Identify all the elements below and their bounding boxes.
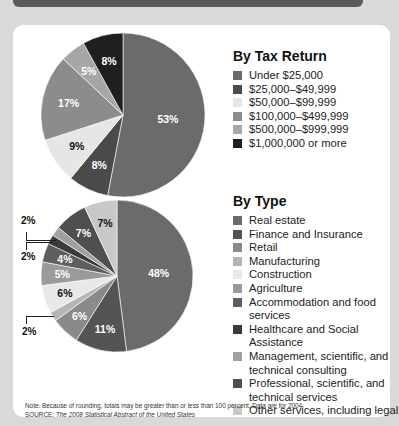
rounding-note: Note: Because of rounding, totals may be…	[25, 401, 304, 410]
legend-swatch	[233, 270, 242, 279]
business-type-legend-title: By Type	[233, 193, 399, 209]
legend-label: $25,000–$49,999	[249, 83, 336, 97]
legend-label: Management, scientific, and technical co…	[249, 350, 399, 377]
business-type-legend-item: Healthcare and Social Assistance	[233, 323, 399, 350]
tax-return-slice-label: 17%	[58, 97, 79, 109]
legend-label: Retail	[249, 241, 278, 255]
business-type-legend-item: Construction	[233, 268, 399, 282]
business-type-legend-item: Accommodation and food services	[233, 296, 399, 323]
legend-label: Healthcare and Social Assistance	[249, 323, 399, 350]
business-type-legend-item: Manufacturing	[233, 255, 399, 269]
legend-swatch	[233, 230, 242, 239]
business-type-legend-item: Agriculture	[233, 282, 399, 296]
tax-return-legend-item: Under $25,000	[233, 69, 349, 83]
callout-label: 2%	[21, 251, 35, 262]
business-type-slice-label: 7%	[97, 217, 112, 229]
legend-swatch	[233, 352, 242, 361]
header-bar	[13, 0, 363, 7]
business-type-slice-label: 4%	[57, 253, 72, 265]
business-type-slice-label: 6%	[57, 287, 72, 299]
callout-label: 2%	[21, 215, 35, 226]
legend-swatch	[233, 139, 242, 148]
legend-label: Construction	[249, 268, 312, 282]
tax-return-slice-label: 53%	[157, 113, 178, 125]
tax-return-legend-item: $25,000–$49,999	[233, 83, 349, 97]
legend-label: Under $25,000	[249, 69, 323, 83]
legend-label: Manufacturing	[249, 255, 320, 269]
legend-label: Real estate	[249, 214, 306, 228]
callout-line	[26, 232, 27, 240]
tax-return-legend-item: $100,000–$499,999	[233, 110, 349, 124]
business-type-legend-item: Retail	[233, 241, 399, 255]
legend-swatch	[233, 125, 242, 134]
business-type-slice-label: 7%	[76, 227, 91, 239]
tax-return-slice-label: 8%	[102, 55, 117, 67]
legend-swatch	[233, 298, 242, 307]
legend-swatch	[233, 284, 242, 293]
tax-return-slice-label: 5%	[81, 65, 96, 77]
tax-return-legend-title: By Tax Return	[233, 48, 349, 64]
legend-label: Agriculture	[249, 282, 302, 296]
callout-line	[26, 240, 56, 241]
legend-label: Finance and Insurance	[249, 228, 363, 242]
legend-swatch	[233, 257, 242, 266]
legend-swatch	[233, 325, 242, 334]
legend-swatch	[233, 98, 242, 107]
legend-swatch	[233, 112, 242, 121]
callout-line	[26, 242, 27, 250]
legend-swatch	[233, 85, 242, 94]
tax-return-legend-item: $500,000–$999,999	[233, 123, 349, 137]
tax-return-legend-item: $50,000–$99,999	[233, 96, 349, 110]
legend-label: $100,000–$499,999	[249, 110, 349, 124]
legend-label: $50,000–$99,999	[249, 96, 336, 110]
legend-label: $500,000–$999,999	[249, 123, 349, 137]
business-type-legend: By Type Real estateFinance and Insurance…	[233, 193, 399, 418]
legend-swatch	[233, 216, 242, 225]
callout-label: 2%	[22, 326, 36, 337]
business-type-slice-label: 11%	[95, 323, 115, 335]
callout-line	[26, 316, 54, 317]
tax-return-slice-label: 8%	[92, 159, 107, 171]
tax-return-slice-label: 9%	[69, 140, 84, 152]
legend-swatch	[233, 71, 242, 80]
callout-line	[26, 242, 53, 243]
business-type-slice-label: 48%	[148, 267, 169, 279]
legend-label: Accommodation and food services	[249, 296, 399, 323]
business-type-legend-item: Management, scientific, and technical co…	[233, 350, 399, 377]
callout-line	[26, 316, 27, 324]
tax-return-pie-chart	[41, 33, 205, 197]
source-line: SOURCE: The 2008 Statistical Abstract of…	[25, 410, 304, 419]
tax-return-legend-item: $1,000,000 or more	[233, 137, 349, 151]
source-title: The 2008 Statistical Abstract of the Uni…	[56, 411, 195, 418]
business-type-slice-label: 5%	[55, 268, 70, 280]
footer-note: Note: Because of rounding, totals may be…	[25, 401, 304, 419]
business-type-legend-item: Real estate	[233, 214, 399, 228]
legend-swatch	[233, 379, 242, 388]
tax-return-legend: By Tax Return Under $25,000$25,000–$49,9…	[233, 48, 349, 151]
business-type-slice-label: 6%	[72, 310, 87, 322]
legend-label: $1,000,000 or more	[249, 137, 347, 151]
business-type-legend-item: Finance and Insurance	[233, 228, 399, 242]
legend-swatch	[233, 243, 242, 252]
